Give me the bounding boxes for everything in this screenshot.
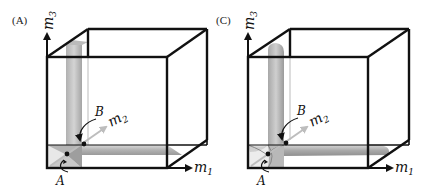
label-a: A	[256, 174, 266, 188]
m3-label: m	[241, 17, 257, 30]
point-a	[266, 152, 271, 157]
svg-text:m3: m3	[241, 11, 259, 30]
svg-text:m1: m1	[194, 159, 213, 177]
panel-c: (C)	[216, 11, 414, 188]
label-a: A	[55, 174, 65, 188]
point-b	[284, 141, 289, 146]
svg-text:m3: m3	[40, 11, 58, 30]
point-a	[65, 152, 70, 157]
m3-label: m	[40, 17, 56, 30]
svg-text:m2: m2	[105, 106, 130, 131]
svg-text:m2: m2	[306, 106, 331, 131]
panel-label-a: (A)	[12, 14, 28, 27]
m1-label: m	[395, 159, 408, 175]
panel-label-c: (C)	[216, 14, 231, 27]
svg-text:m1: m1	[395, 159, 414, 177]
m1-label: m	[194, 159, 207, 175]
panel-a: (A)	[12, 11, 213, 188]
point-b	[82, 142, 87, 147]
surface-shading	[47, 40, 182, 168]
label-b: B	[94, 105, 104, 119]
label-b: B	[296, 104, 306, 118]
